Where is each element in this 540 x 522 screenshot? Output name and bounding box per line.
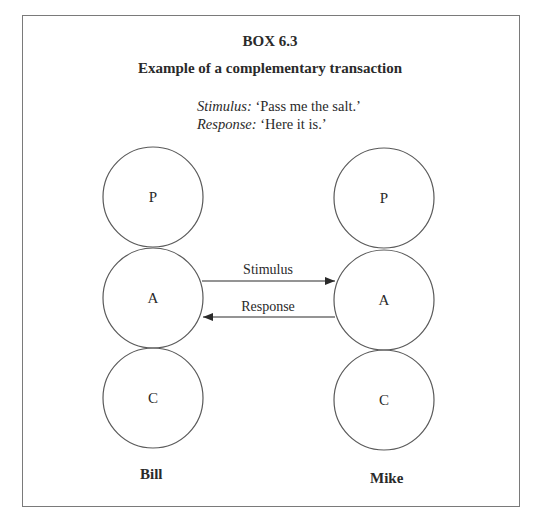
mike-child-label: C [379, 392, 389, 408]
bill-ego-states: P A C [103, 147, 203, 448]
mike-parent-label: P [380, 190, 388, 206]
bill-parent-label: P [149, 189, 157, 205]
response-arrow-label: Response [241, 299, 295, 314]
right-person-name: Mike [370, 470, 403, 487]
bill-child-label: C [148, 390, 158, 406]
stimulus-arrow-label: Stimulus [243, 262, 293, 277]
transaction-arrows: Stimulus Response [202, 262, 335, 317]
bill-adult-label: A [148, 290, 159, 306]
left-person-name: Bill [140, 466, 163, 483]
ego-state-diagram: P A C P A C Stimulus Response [0, 0, 540, 522]
mike-adult-label: A [379, 292, 390, 308]
mike-ego-states: P A C [334, 148, 434, 450]
